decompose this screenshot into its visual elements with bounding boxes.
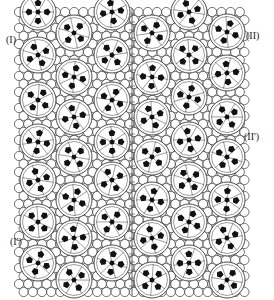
label-I-prime: (I'): [10, 236, 22, 247]
label-II: (II): [246, 30, 259, 41]
label-I: (I): [6, 34, 16, 45]
label-II-prime: (II'): [244, 131, 259, 142]
molecular-packing-diagram: [0, 0, 274, 300]
